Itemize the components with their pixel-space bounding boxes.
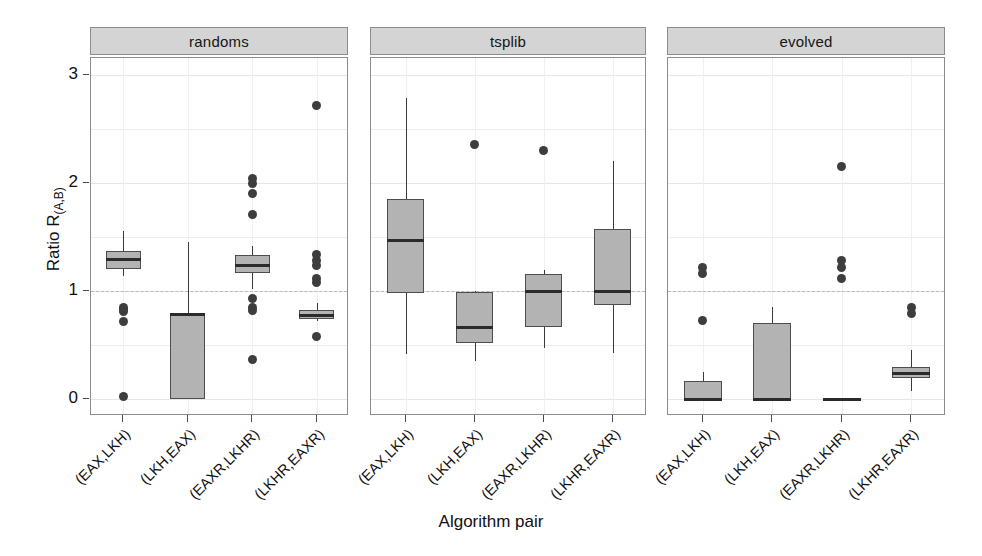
outlier-point: [119, 307, 128, 316]
median-line: [299, 314, 334, 317]
facet-strip-label: tsplib: [490, 33, 526, 50]
x-axis-tick-mark: [702, 415, 703, 422]
whisker-lower: [406, 293, 407, 353]
outlier-point: [248, 355, 257, 364]
panel-tsplib: [370, 57, 646, 415]
outlier-point: [248, 210, 257, 219]
y-axis-tick-mark: [83, 182, 89, 183]
outlier-point: [248, 179, 257, 188]
median-line: [525, 290, 563, 293]
box: [594, 229, 632, 305]
outlier-point: [698, 269, 707, 278]
median-line: [684, 398, 722, 401]
outlier-point: [312, 261, 321, 270]
median-line: [387, 239, 425, 242]
gridline-horizontal: [91, 399, 347, 400]
y-axis-tick-label: 3: [44, 64, 78, 84]
gridline-horizontal: [91, 345, 347, 346]
y-axis-title-text: Ratio R: [44, 215, 63, 272]
median-line: [892, 372, 930, 375]
whisker-lower: [252, 273, 253, 289]
gridline-vertical: [317, 58, 318, 414]
x-axis-tick-mark: [122, 415, 123, 422]
gridline-horizontal: [371, 183, 645, 184]
box: [387, 199, 425, 293]
y-axis-tick-label: 1: [44, 280, 78, 300]
facet-strip-label: evolved: [779, 33, 832, 50]
median-line: [235, 264, 270, 267]
y-axis-tick-mark: [83, 290, 89, 291]
x-axis-tick-mark: [612, 415, 613, 422]
whisker-upper: [911, 350, 912, 366]
panel-randoms: [90, 57, 348, 415]
outlier-point: [248, 306, 257, 315]
whisker-upper: [703, 372, 704, 381]
whisker-lower: [123, 269, 124, 275]
gridline-horizontal: [371, 345, 645, 346]
outlier-point: [312, 278, 321, 287]
outlier-point: [539, 146, 548, 155]
whisker-lower: [911, 378, 912, 391]
gridline-horizontal: [91, 75, 347, 76]
gridline-horizontal: [91, 129, 347, 130]
box: [525, 274, 563, 327]
facet-strip-tsplib: tsplib: [370, 27, 646, 55]
panel-evolved: [667, 57, 945, 415]
whisker-upper: [772, 307, 773, 323]
x-axis-tick-mark: [771, 415, 772, 422]
box: [456, 292, 494, 343]
y-axis-tick-label: 0: [44, 388, 78, 408]
x-axis-tick-mark: [405, 415, 406, 422]
outlier-point: [312, 332, 321, 341]
gridline-horizontal: [371, 75, 645, 76]
whisker-lower: [544, 327, 545, 349]
x-axis-tick-mark: [251, 415, 252, 422]
x-axis-tick-mark: [474, 415, 475, 422]
y-axis-tick-mark: [83, 74, 89, 75]
median-line: [106, 258, 141, 261]
x-axis-tick-mark: [910, 415, 911, 422]
whisker-upper: [123, 231, 124, 252]
x-axis-tick-mark: [841, 415, 842, 422]
gridline-horizontal: [91, 183, 347, 184]
facet-strip-label: randoms: [189, 33, 249, 50]
gridline-horizontal: [371, 129, 645, 130]
y-axis-tick-label: 2: [44, 172, 78, 192]
whisker-lower: [317, 319, 318, 321]
gridline-vertical: [703, 58, 704, 414]
whisker-upper: [317, 303, 318, 311]
x-axis-tick-mark: [316, 415, 317, 422]
outlier-point: [248, 294, 257, 303]
outlier-point: [119, 317, 128, 326]
gridline-horizontal: [668, 75, 944, 76]
whisker-lower: [613, 305, 614, 353]
whisker-lower: [475, 343, 476, 361]
box: [170, 314, 205, 399]
boxplot-figure: Ratio R(A,B) Algorithm pair 0123 randoms…: [0, 0, 982, 556]
outlier-point: [837, 274, 846, 283]
facet-strip-randoms: randoms: [90, 27, 348, 55]
gridline-vertical: [842, 58, 843, 414]
x-axis-tick-mark: [543, 415, 544, 422]
median-line: [456, 326, 494, 329]
outlier-point: [248, 189, 257, 198]
reference-line-ratio-1: [668, 291, 944, 292]
gridline-horizontal: [91, 237, 347, 238]
whisker-upper: [188, 242, 189, 313]
gridline-horizontal: [371, 399, 645, 400]
median-line: [170, 313, 205, 316]
gridline-horizontal: [668, 345, 944, 346]
y-axis-tick-mark: [83, 398, 89, 399]
box: [684, 381, 722, 399]
gridline-horizontal: [668, 237, 944, 238]
outlier-point: [470, 140, 479, 149]
reference-line-ratio-1: [91, 291, 347, 292]
gridline-horizontal: [668, 183, 944, 184]
whisker-upper: [252, 246, 253, 256]
median-line: [753, 398, 791, 401]
box: [753, 323, 791, 399]
whisker-upper: [613, 161, 614, 229]
x-axis-tick-mark: [187, 415, 188, 422]
gridline-horizontal: [668, 129, 944, 130]
median-line: [594, 290, 632, 293]
